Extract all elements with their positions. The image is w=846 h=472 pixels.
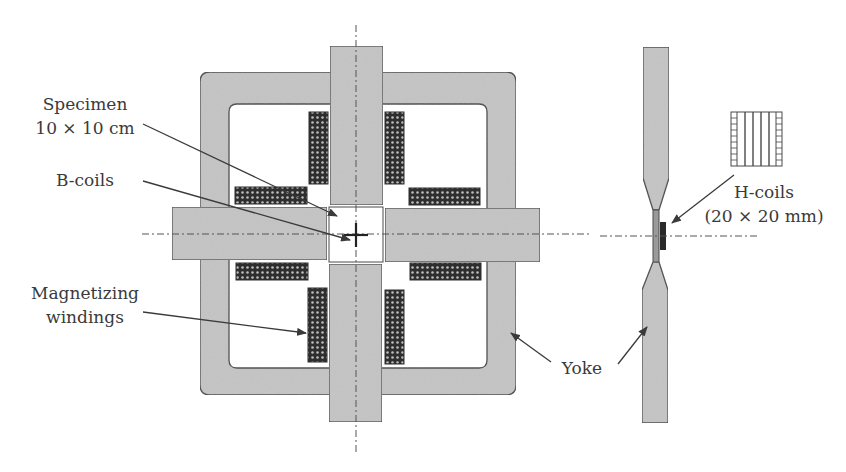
winding-left-upper <box>235 187 307 204</box>
winding-bottom-right <box>385 290 404 364</box>
label-specimen: Specimen <box>43 94 128 114</box>
side-view <box>600 47 782 423</box>
label-specimen-size: 10 × 10 cm <box>35 118 134 138</box>
side-yoke-lower <box>642 262 668 423</box>
label-windings: windings <box>46 307 124 327</box>
label-h-coils: H-coils <box>734 182 794 202</box>
winding-top-right <box>385 112 404 184</box>
label-h-coils-size: (20 × 20 mm) <box>704 206 823 226</box>
winding-top-left <box>309 112 328 184</box>
label-yoke: Yoke <box>561 358 602 378</box>
h-coil-detail-icon <box>731 112 782 166</box>
magnetic-tester-diagram: Specimen 10 × 10 cm B-coils Magnetizing … <box>0 0 846 472</box>
plan-view <box>142 25 590 455</box>
winding-bottom-left <box>308 288 327 362</box>
side-yoke-upper <box>643 47 669 210</box>
label-magnetizing: Magnetizing <box>31 283 139 303</box>
pole-arm-right <box>385 208 540 262</box>
label-b-coils: B-coils <box>56 170 114 190</box>
winding-right-lower <box>410 263 481 280</box>
winding-left-lower <box>236 263 308 280</box>
winding-right-upper <box>409 188 480 205</box>
yoke-arrow-plan <box>511 333 551 362</box>
